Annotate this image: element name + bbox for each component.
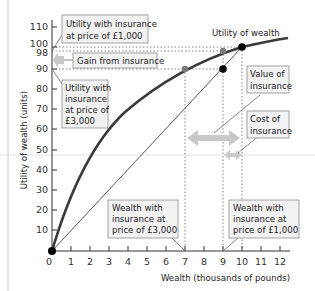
svg-text:10: 10	[236, 256, 248, 267]
label-gain-from-insurance: Gain from insurance	[64, 53, 164, 68]
svg-text:50: 50	[36, 144, 48, 155]
svg-text:60: 60	[36, 123, 48, 134]
svg-text:12: 12	[274, 256, 286, 267]
value-of-insurance-arrow	[187, 130, 240, 146]
curve-label: Utility of wealth	[212, 28, 280, 38]
svg-text:insurance at: insurance at	[112, 214, 166, 224]
svg-text:£3,000: £3,000	[65, 116, 95, 126]
svg-text:0: 0	[46, 256, 52, 267]
point-wealth-9	[220, 48, 226, 54]
svg-text:insurance: insurance	[250, 81, 292, 91]
point-expected-utility	[219, 65, 227, 73]
svg-text:1: 1	[68, 256, 74, 267]
label-wealth-3000: Wealth with insurance at price of £3,000	[108, 200, 185, 251]
svg-text:insurance: insurance	[65, 94, 107, 104]
svg-text:price of £3,000: price of £3,000	[112, 225, 177, 235]
svg-text:Utility with insurance: Utility with insurance	[66, 19, 157, 29]
label-wealth-1000: Wealth with insurance at price of £1,000	[223, 200, 299, 251]
label-cost-of-insurance: Cost of insurance	[238, 111, 292, 153]
utility-of-wealth-chart: Utility of wealth (units) 110 100 98 90 …	[0, 0, 315, 291]
gain-from-insurance-arrow	[53, 52, 64, 68]
label-utility-1000: Utility with insurance at price of £1,00…	[52, 15, 157, 51]
y-tick-labels: 110 100 98 90 80 70 60 50 40 30 10	[30, 21, 48, 235]
svg-text:Wealth with: Wealth with	[112, 203, 163, 213]
svg-text:4: 4	[125, 256, 131, 267]
svg-text:Wealth with: Wealth with	[233, 203, 284, 213]
label-utility-3000: Utility with insurance at price of £3,00…	[52, 69, 111, 128]
point-wealth-7	[182, 66, 188, 72]
svg-text:98: 98	[36, 47, 48, 58]
svg-text:Gain from insurance: Gain from insurance	[77, 56, 164, 66]
svg-text:70: 70	[36, 103, 48, 114]
svg-text:Utility with: Utility with	[65, 83, 111, 93]
svg-text:110: 110	[30, 21, 48, 32]
svg-text:11: 11	[255, 256, 267, 267]
svg-text:Value of: Value of	[250, 69, 286, 79]
svg-text:at price of: at price of	[65, 105, 110, 115]
svg-text:9: 9	[220, 256, 226, 267]
point-wealth-10	[238, 43, 246, 51]
svg-text:Cost of: Cost of	[250, 114, 281, 124]
origin-point	[48, 247, 56, 255]
svg-text:90: 90	[36, 63, 48, 74]
svg-text:at price of £1,000: at price of £1,000	[66, 31, 143, 41]
y-axis-label: Utility of wealth (units)	[19, 91, 29, 189]
svg-text:6: 6	[163, 256, 169, 267]
svg-text:10: 10	[36, 224, 48, 235]
svg-text:3: 3	[106, 256, 112, 267]
svg-text:8: 8	[201, 256, 207, 267]
svg-text:insurance: insurance	[250, 126, 292, 136]
svg-text:insurance at: insurance at	[233, 214, 287, 224]
x-axis-label: Wealth (thousands of pounds)	[161, 273, 290, 283]
x-tick-labels: 0 1 2 3 4 5 6 7 8 9 10 11 12	[46, 256, 286, 267]
svg-text:price of £1,000: price of £1,000	[233, 225, 298, 235]
svg-text:5: 5	[144, 256, 150, 267]
svg-text:30: 30	[36, 184, 48, 195]
y-tick-20: 20	[36, 204, 48, 215]
svg-text:40: 40	[36, 164, 48, 175]
svg-text:2: 2	[87, 256, 93, 267]
svg-text:80: 80	[36, 83, 48, 94]
svg-text:7: 7	[182, 256, 188, 267]
x-ticks	[71, 246, 280, 251]
